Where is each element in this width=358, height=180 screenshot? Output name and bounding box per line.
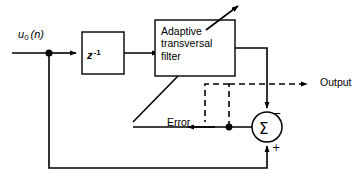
summing-junction-minus-sign: − — [272, 108, 281, 121]
summing-junction-label: Σ — [259, 121, 268, 139]
filter-block-label: Adaptivetransversalfilter — [161, 25, 212, 62]
adaptive-filter-diagram: u0(n) z-1 Adaptivetransversalfilter Erro… — [0, 0, 358, 180]
summing-junction-plus-sign: + — [272, 142, 280, 154]
delay-block-label: z-1 — [87, 48, 101, 62]
input-signal-label: u0(n) — [18, 28, 44, 42]
output-signal-label: Output — [320, 76, 352, 88]
filter-output-path — [235, 48, 267, 108]
error-signal-label: Error — [167, 116, 190, 128]
